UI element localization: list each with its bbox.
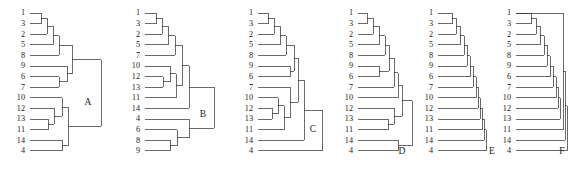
dendrogram-svg-canvas: 1325896710121311144132571012131114468913… <box>0 0 577 171</box>
leaf-label-c-12: 12 <box>245 104 253 113</box>
panel-label-e: E <box>489 146 495 156</box>
leaf-label-b-6: 6 <box>136 125 140 134</box>
leaf-label-e-10: 10 <box>425 93 433 102</box>
leaf-label-a-9: 9 <box>21 61 25 70</box>
leaf-label-a-4: 4 <box>21 146 25 155</box>
leaf-label-a-14: 14 <box>17 136 25 145</box>
leaf-label-a-7: 7 <box>21 83 25 92</box>
dendrogram-panel-b: 1325710121311144689 <box>132 8 214 155</box>
leaf-label-d-8: 8 <box>349 51 353 60</box>
leaf-label-d-6: 6 <box>349 72 353 81</box>
leaf-label-a-3: 3 <box>21 19 25 28</box>
leaf-label-e-11: 11 <box>425 125 433 134</box>
leaf-label-f-3: 3 <box>507 19 511 28</box>
leaf-label-f-12: 12 <box>503 104 511 113</box>
leaf-label-b-5: 5 <box>136 40 140 49</box>
leaf-label-c-10: 10 <box>245 93 253 102</box>
leaf-label-f-9: 9 <box>507 61 511 70</box>
leaf-label-f-14: 14 <box>503 136 511 145</box>
leaf-label-e-13: 13 <box>425 114 433 123</box>
leaf-label-f-2: 2 <box>507 30 511 39</box>
leaf-label-d-12: 12 <box>345 104 353 113</box>
leaf-label-a-1: 1 <box>21 8 25 17</box>
leaf-label-c-9: 9 <box>249 61 253 70</box>
leaf-label-e-5: 5 <box>429 40 433 49</box>
leaf-label-c-14: 14 <box>245 136 253 145</box>
leaf-label-e-12: 12 <box>425 104 433 113</box>
leaf-label-d-13: 13 <box>345 114 353 123</box>
leaf-label-b-7: 7 <box>136 51 140 60</box>
panel-label-f: F <box>559 146 564 156</box>
leaf-label-d-5: 5 <box>349 40 353 49</box>
leaf-label-e-8: 8 <box>429 51 433 60</box>
dendrogram-panel-f: 1325896710121311144 <box>503 8 567 155</box>
leaf-label-b-3: 3 <box>136 19 140 28</box>
leaf-label-f-5: 5 <box>507 40 511 49</box>
leaf-label-e-1: 1 <box>429 8 433 17</box>
leaf-label-e-7: 7 <box>429 83 433 92</box>
leaf-label-d-1: 1 <box>349 8 353 17</box>
leaf-label-f-6: 6 <box>507 72 511 81</box>
leaf-label-c-1: 1 <box>249 8 253 17</box>
leaf-label-e-2: 2 <box>429 30 433 39</box>
leaf-label-b-14: 14 <box>132 104 140 113</box>
dendrogram-figure: 1325896710121311144132571012131114468913… <box>0 0 577 171</box>
leaf-label-b-11: 11 <box>132 93 140 102</box>
leaf-label-d-7: 7 <box>349 83 353 92</box>
leaf-label-f-11: 11 <box>503 125 511 134</box>
leaf-label-d-9: 9 <box>349 61 353 70</box>
leaf-label-c-11: 11 <box>245 125 253 134</box>
leaf-label-f-4: 4 <box>507 146 511 155</box>
leaf-label-b-1: 1 <box>136 8 140 17</box>
leaf-label-a-12: 12 <box>17 104 25 113</box>
panel-label-b: B <box>200 109 206 119</box>
leaf-label-c-13: 13 <box>245 114 253 123</box>
leaf-label-e-3: 3 <box>429 19 433 28</box>
leaf-label-f-8: 8 <box>507 51 511 60</box>
leaf-label-b-8: 8 <box>136 136 140 145</box>
leaf-label-c-6: 6 <box>249 72 253 81</box>
leaf-label-a-8: 8 <box>21 51 25 60</box>
leaf-label-b-13: 13 <box>132 83 140 92</box>
panel-label-c: C <box>310 124 316 134</box>
leaf-label-c-2: 2 <box>249 30 253 39</box>
leaf-label-c-4: 4 <box>249 146 253 155</box>
leaf-label-f-13: 13 <box>503 114 511 123</box>
leaf-label-e-6: 6 <box>429 72 433 81</box>
leaf-label-e-14: 14 <box>425 136 433 145</box>
panel-label-a: A <box>85 97 92 107</box>
leaf-label-a-6: 6 <box>21 72 25 81</box>
panel-label-d: D <box>399 146 406 156</box>
leaf-label-b-2: 2 <box>136 30 140 39</box>
leaf-label-f-7: 7 <box>507 83 511 92</box>
leaf-label-b-9: 9 <box>136 146 140 155</box>
leaf-label-f-1: 1 <box>507 8 511 17</box>
leaf-label-d-11: 11 <box>345 125 353 134</box>
leaf-label-d-2: 2 <box>349 30 353 39</box>
leaf-label-d-4: 4 <box>349 146 353 155</box>
dendrogram-panel-d: 1325896710121311144 <box>345 8 412 155</box>
leaf-label-d-14: 14 <box>345 136 353 145</box>
leaf-label-d-3: 3 <box>349 19 353 28</box>
leaf-label-c-7: 7 <box>249 83 253 92</box>
leaf-label-f-10: 10 <box>503 93 511 102</box>
leaf-label-a-5: 5 <box>21 40 25 49</box>
leaf-label-e-4: 4 <box>429 146 433 155</box>
leaf-label-b-12: 12 <box>132 72 140 81</box>
leaf-label-b-4: 4 <box>136 114 140 123</box>
leaf-label-c-8: 8 <box>249 51 253 60</box>
leaf-label-a-13: 13 <box>17 114 25 123</box>
leaf-label-d-10: 10 <box>345 93 353 102</box>
dendrogram-panel-e: 1325896710121311144 <box>425 8 486 155</box>
leaf-label-a-10: 10 <box>17 93 25 102</box>
leaf-label-c-3: 3 <box>249 19 253 28</box>
dendrogram-panel-a: 1325896710121311144 <box>17 8 101 155</box>
leaf-label-e-9: 9 <box>429 61 433 70</box>
leaf-label-a-11: 11 <box>17 125 25 134</box>
leaf-label-b-10: 10 <box>132 61 140 70</box>
leaf-label-c-5: 5 <box>249 40 253 49</box>
leaf-label-a-2: 2 <box>21 30 25 39</box>
